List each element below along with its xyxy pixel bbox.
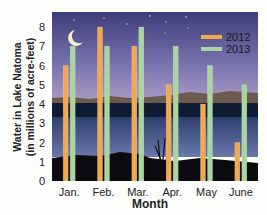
bar-2012-mar bbox=[132, 46, 137, 181]
legend-label-2012: 2012 bbox=[226, 31, 250, 43]
dark-waterline bbox=[52, 103, 258, 117]
bar-2013-feb bbox=[105, 46, 110, 181]
x-tick-label: Feb. bbox=[92, 186, 114, 198]
y-tick-label: 1 bbox=[39, 156, 45, 168]
y-ticks: 012345678 bbox=[39, 21, 45, 187]
bar-2012-june bbox=[235, 143, 240, 182]
y-tick-label: 4 bbox=[39, 98, 45, 110]
x-axis-label: Month bbox=[132, 197, 168, 211]
legend-label-2013: 2013 bbox=[226, 43, 250, 55]
y-tick-label: 2 bbox=[39, 137, 45, 149]
chart: 012345678 Jan.Feb.Mar.Apr.MayJune 2012 2… bbox=[0, 0, 267, 215]
x-tick-label: June bbox=[229, 186, 253, 198]
y-tick-label: 3 bbox=[39, 117, 45, 129]
y-tick-label: 0 bbox=[39, 175, 45, 187]
bar-2013-mar bbox=[139, 27, 144, 181]
y-tick-label: 5 bbox=[39, 79, 45, 91]
x-tick-label: May bbox=[196, 186, 217, 198]
bar-2013-june bbox=[242, 85, 247, 181]
y-tick-label: 7 bbox=[39, 40, 45, 52]
bar-2012-feb bbox=[98, 27, 103, 181]
y-tick-label: 6 bbox=[39, 60, 45, 72]
y-tick-label: 8 bbox=[39, 21, 45, 33]
bar-2013-may bbox=[208, 66, 213, 182]
bar-2012-apr bbox=[166, 85, 171, 181]
y-axis-label-line2: (in millions of acre-feet) bbox=[24, 38, 36, 156]
bar-2013-apr bbox=[173, 46, 178, 181]
bar-2012-may bbox=[201, 104, 206, 181]
bar-2012-jan bbox=[63, 66, 68, 182]
x-tick-label: Jan. bbox=[59, 186, 80, 198]
lake-water bbox=[52, 117, 258, 157]
y-axis-label-line1: Water in Lake Natoma bbox=[11, 42, 23, 151]
bar-2013-jan bbox=[70, 46, 75, 181]
